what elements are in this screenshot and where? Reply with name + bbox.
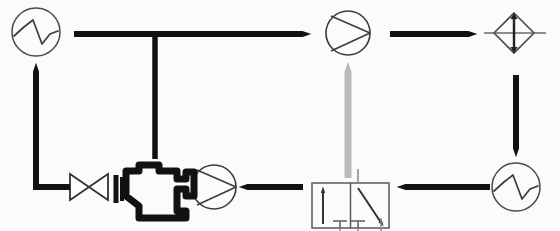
schematic-diagram <box>0 0 560 231</box>
diagram-canvas <box>0 0 560 231</box>
